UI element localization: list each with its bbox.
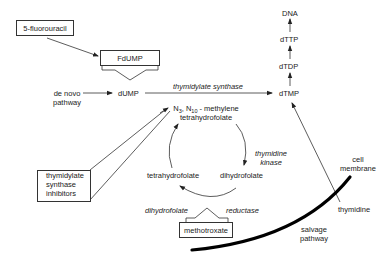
cell-membrane-label: cell membrane xyxy=(336,155,380,173)
ts-inhibitors-line2: synthase xyxy=(46,180,76,189)
methotrexate-block-arrow xyxy=(186,208,228,222)
ts-inhibitors-line1: thymidylate xyxy=(46,171,84,180)
arrow-thymidine-to-dtmp xyxy=(292,103,340,202)
ts-inhibitors-callout xyxy=(90,110,170,200)
ts-inhibitors-box: thymidylate synthase inhibitors xyxy=(37,170,91,202)
fluorouracil-label: 5-fluorouracil xyxy=(23,24,66,33)
dhfr-right-label: reductase xyxy=(226,206,259,215)
dtdp-label: dTDP xyxy=(279,62,298,71)
fdump-label: FdUMP xyxy=(117,54,142,63)
ts-inhibitors-line3: inhibitors xyxy=(46,189,76,198)
dna-label: DNA xyxy=(282,9,298,18)
fdump-block-arrow xyxy=(102,66,158,80)
salvage-pathway-label: salvage pathway xyxy=(294,225,334,243)
methotrexate-label: methotroxate xyxy=(184,226,228,235)
tetrahydrofolate-label: tetrahydrofolate xyxy=(147,171,199,180)
dtmp-label: dTMP xyxy=(279,89,299,98)
arc-methylene-to-dihydrofolate xyxy=(236,124,246,165)
methotrexate-box: methotroxate xyxy=(179,222,233,238)
de-novo-pathway-label: de novo pathway xyxy=(50,89,84,107)
dihydrofolate-label: dihydrofolate xyxy=(220,171,263,180)
arrow-5fu-to-fdump xyxy=(47,38,98,56)
methylene-thf-label: N3, N10 - methylene tetrahydrofolate xyxy=(166,104,246,122)
thymidylate-synthase-label: thymidylate synthase xyxy=(173,82,243,91)
arc-thf-to-methylene xyxy=(169,124,178,168)
fluorouracil-box: 5-fluorouracil xyxy=(16,20,74,36)
dttp-label: dTTP xyxy=(280,35,298,44)
dhfr-left-label: dihydrofolate xyxy=(145,206,188,215)
fdump-box: FdUMP xyxy=(100,50,160,66)
arc-dihydrofolate-to-thf xyxy=(180,186,236,197)
dump-label: dUMP xyxy=(118,89,139,98)
thymidine-label: thymidine xyxy=(338,205,370,214)
thymidine-kinase-label: thymidine kinase xyxy=(252,149,290,167)
